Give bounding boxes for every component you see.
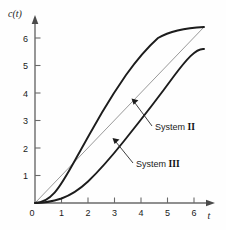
x-axis-title: t [208, 210, 211, 221]
y-axis-title: c(t) [8, 8, 23, 20]
y-tick-label-1: 1 [23, 171, 28, 181]
x-tick-label-3: 3 [112, 208, 117, 218]
system-3-label-numeral: III [169, 159, 180, 169]
x-axis-arrowhead [206, 200, 215, 207]
data-curves [35, 27, 204, 203]
system-2-label: System II [155, 122, 195, 132]
system-2-label-prefix: System [155, 122, 185, 132]
line-chart: 0 1 2 3 4 5 6 1 2 3 4 5 6 c(t) t [0, 0, 226, 230]
annotation-system-2: System II [132, 99, 196, 133]
x-tick-label-4: 4 [138, 208, 143, 218]
y-tick-label-3: 3 [23, 116, 28, 126]
y-tick-label-4: 4 [23, 89, 28, 99]
system-3-leader-line [116, 142, 133, 163]
chart-figure: 0 1 2 3 4 5 6 1 2 3 4 5 6 c(t) t [0, 0, 226, 230]
reference-line-series [35, 27, 204, 203]
system-3-label: System III [136, 159, 180, 169]
system-3-label-prefix: System [136, 159, 166, 169]
x-tick-label-0: 0 [29, 208, 34, 218]
system-3-arrowhead [113, 138, 120, 144]
y-tick-marks [35, 38, 41, 176]
y-tick-label-6: 6 [23, 34, 28, 44]
y-axis-arrowhead [32, 15, 39, 24]
system-2-label-numeral: II [188, 122, 196, 132]
x-tick-label-2: 2 [85, 208, 90, 218]
y-tick-label-5: 5 [23, 61, 28, 71]
x-tick-labels: 0 1 2 3 4 5 6 [29, 208, 196, 218]
x-tick-marks [62, 198, 195, 204]
y-tick-labels: 1 2 3 4 5 6 [23, 34, 28, 182]
x-tick-label-6: 6 [191, 208, 196, 218]
x-tick-label-1: 1 [59, 208, 64, 218]
x-tick-label-5: 5 [165, 208, 170, 218]
y-tick-label-2: 2 [23, 144, 28, 154]
